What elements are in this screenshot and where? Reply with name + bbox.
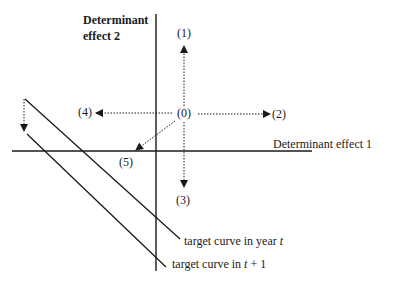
arrow-3-label: (3) bbox=[176, 193, 190, 207]
label-text: target curve in year bbox=[184, 234, 280, 248]
label-text: target curve in bbox=[172, 257, 244, 271]
arrow-4-label: (4) bbox=[78, 105, 92, 119]
y-axis-label-line2: effect 2 bbox=[83, 29, 120, 43]
label-suffix: + 1 bbox=[247, 257, 266, 271]
target-curve-year-t bbox=[25, 99, 180, 239]
origin-label: (0) bbox=[177, 106, 191, 120]
arrow-1-label: (1) bbox=[177, 26, 191, 40]
target-curve-year-t-label: target curve in year t bbox=[184, 234, 283, 248]
label-var: t bbox=[280, 234, 283, 248]
arrow-2-label: (2) bbox=[272, 107, 286, 121]
x-axis-label: Determinant effect 1 bbox=[273, 137, 372, 151]
target-curve-t-plus-1 bbox=[27, 134, 166, 267]
target-curve-t-plus-1-label: target curve in t + 1 bbox=[172, 257, 266, 271]
y-axis-label-line1: Determinant bbox=[83, 13, 148, 27]
arrow-5-label: (5) bbox=[119, 155, 133, 169]
